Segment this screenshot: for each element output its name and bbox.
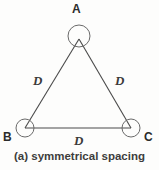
vertex-label-c: C — [144, 131, 153, 143]
side-label-ab: D — [33, 74, 42, 87]
figure-caption: (a) symmetrical spacing — [0, 150, 159, 163]
figure-symmetrical-spacing: A B C D D D (a) symmetrical spacing — [0, 0, 159, 170]
side-label-ac: D — [115, 74, 124, 87]
conductor-circle-a — [68, 25, 90, 47]
side-label-bc: D — [74, 134, 83, 147]
vertex-label-a: A — [72, 3, 81, 15]
vertex-label-b: B — [3, 131, 12, 143]
